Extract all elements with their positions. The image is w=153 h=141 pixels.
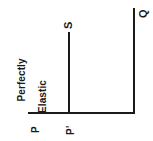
axis-title-line-2: Elastic	[38, 58, 49, 113]
quantity-axis-line	[133, 8, 135, 114]
baseline-axis	[28, 112, 135, 114]
price-tick-label: P	[30, 126, 41, 133]
supply-curve-label: S	[63, 22, 75, 29]
axis-title: Perfectly Elastic	[6, 58, 69, 113]
perfectly-elastic-figure: Perfectly Elastic S Q P P’	[0, 0, 153, 141]
axis-title-line-1: Perfectly	[16, 58, 27, 101]
price-prime-tick-label: P’	[65, 126, 76, 135]
supply-curve-line	[68, 32, 70, 113]
quantity-axis-label: Q	[138, 9, 150, 18]
